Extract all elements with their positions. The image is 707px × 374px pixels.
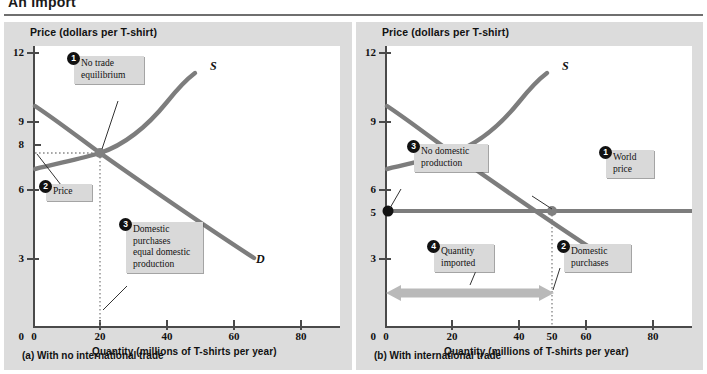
panel-a-supply-label: S xyxy=(210,59,217,74)
panel-b-callout-1: World price xyxy=(606,150,654,178)
panel-a-callout-1-bullet: 1 xyxy=(67,52,80,65)
panel-b-leader-1 xyxy=(532,196,552,209)
panel-b-callout-4: Quantity imported xyxy=(434,244,494,272)
panel-a-callout-3-bullet: 3 xyxy=(119,218,132,231)
panel-b-callout-3: No domestic production xyxy=(414,144,488,172)
panel-b-callout-4-bullet: 4 xyxy=(427,240,440,253)
figure-root: An Import Price (dollars per T-shirt) 12… xyxy=(0,0,707,374)
panel-a-leader-1 xyxy=(102,101,118,149)
panel-b-no-production-dot xyxy=(383,206,394,217)
panel-a-callout-2: Price xyxy=(46,184,92,201)
panel-a-caption: (a) With no international trade xyxy=(22,350,164,361)
panel-b-domestic-purchases-dot xyxy=(547,206,557,216)
panel-a-leader-3 xyxy=(103,286,127,310)
panel-b-callout-2-bullet: 2 xyxy=(557,240,570,253)
panel-b-caption: (b) With international trade xyxy=(374,350,501,361)
panel-b-imported-arrow xyxy=(386,285,554,301)
panel-a-equilibrium-dot xyxy=(95,148,105,158)
panel-b-leader-2 xyxy=(553,268,560,290)
panel-b-callout-2: Domestic purchases xyxy=(564,244,631,272)
panel-a-callout-1: No trade equilibrium xyxy=(74,56,144,84)
figure-title: An Import xyxy=(8,0,76,10)
panel-b-callout-3-bullet: 3 xyxy=(407,140,420,153)
panel-b-supply-label: S xyxy=(562,59,569,74)
panel-b: Price (dollars per T-shirt) 12 9 6 5 3 0… xyxy=(356,22,703,370)
panel-a-callout-3: Domestic purchases equal domestic produc… xyxy=(126,222,203,273)
panel-b-curves xyxy=(356,22,704,370)
header-divider xyxy=(4,14,703,16)
panel-b-callout-1-bullet: 1 xyxy=(599,146,612,159)
panel-b-leader-3 xyxy=(390,189,401,208)
panel-a-callout-2-bullet: 2 xyxy=(39,180,52,193)
panel-a-demand-label: D xyxy=(256,252,265,267)
panel-a: Price (dollars per T-shirt) 12 9 8 6 3 0… xyxy=(4,22,352,370)
